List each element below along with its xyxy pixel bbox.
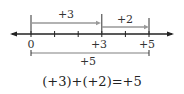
tick-label-0: 0: [28, 38, 35, 51]
result-bracket: +5: [31, 50, 149, 68]
right-arrowhead-icon: [167, 32, 174, 37]
number-line-diagram: +3 +2 0 +3 +5 +5 (+3)+(+2)=+5: [0, 0, 184, 94]
tick-label-plus-3: +3: [91, 38, 107, 51]
left-arrowhead-icon: [10, 32, 17, 37]
result-label: +5: [80, 55, 96, 68]
arrow-label-plus-2: +2: [117, 13, 133, 26]
arrow-plus-3: +3: [31, 8, 101, 25]
arrow-plus-2: +2: [102, 13, 149, 29]
equation: (+3)+(+2)=+5: [42, 74, 142, 89]
arrow-label-plus-3: +3: [58, 8, 74, 21]
tick-label-plus-5: +5: [139, 38, 155, 51]
